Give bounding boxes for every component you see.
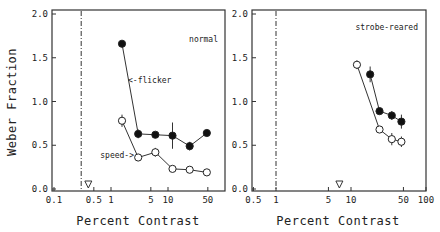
threshold-triangle-icon xyxy=(336,181,343,188)
x-tick-label: 10 xyxy=(163,195,174,205)
filled-circle-marker xyxy=(376,108,383,115)
annotation-flicker: <-flicker xyxy=(128,76,172,85)
x-tick-label: 1 xyxy=(108,195,113,205)
series-line xyxy=(370,74,401,121)
open-circle-marker xyxy=(388,136,395,143)
open-circle-marker xyxy=(118,117,125,124)
open-circle-marker xyxy=(353,61,360,68)
panel-label: strobe-reared xyxy=(355,23,418,32)
x-axis-title: Percent Contrast xyxy=(276,214,400,228)
threshold-triangle-icon xyxy=(85,181,92,188)
x-tick-label: 0.5 xyxy=(86,195,102,205)
filled-circle-marker xyxy=(367,71,374,78)
y-tick-label: 1.5 xyxy=(232,53,248,63)
plot-frame xyxy=(252,10,426,191)
y-tick-label: 2.0 xyxy=(32,9,48,19)
open-circle-marker xyxy=(376,126,383,133)
filled-circle-marker xyxy=(152,131,159,138)
open-circle-marker xyxy=(398,138,405,145)
chart-figure: 0.00.51.01.52.00.10.5151050<-flickerspee… xyxy=(0,0,440,232)
filled-circle-marker xyxy=(398,118,405,125)
series-flicker xyxy=(367,67,405,129)
panel-label: normal xyxy=(189,35,218,44)
filled-circle-marker xyxy=(135,130,142,137)
x-tick-label: 100 xyxy=(418,195,434,205)
x-tick-label: 50 xyxy=(398,195,409,205)
x-tick-label: 50 xyxy=(202,195,213,205)
x-tick-label: 5 xyxy=(148,195,153,205)
open-circle-marker xyxy=(135,154,142,161)
filled-circle-marker xyxy=(169,132,176,139)
y-axis-title: Weber Fraction xyxy=(5,48,19,156)
open-circle-marker xyxy=(186,166,193,173)
x-tick-label: 0.5 xyxy=(245,195,261,205)
series-speed xyxy=(353,60,405,147)
open-circle-marker xyxy=(169,165,176,172)
y-tick-label: 2.0 xyxy=(232,9,248,19)
x-tick-label: 0.1 xyxy=(46,195,62,205)
filled-circle-marker xyxy=(203,129,210,136)
x-tick-label: 5 xyxy=(326,195,331,205)
panel-normal: 0.00.51.01.52.00.10.5151050<-flickerspee… xyxy=(5,9,225,228)
y-tick-label: 0.0 xyxy=(32,184,48,194)
y-tick-label: 0.5 xyxy=(232,140,248,150)
y-tick-label: 1.5 xyxy=(32,53,48,63)
filled-circle-marker xyxy=(186,143,193,150)
series-speed xyxy=(118,115,210,176)
open-circle-marker xyxy=(152,149,159,156)
filled-circle-marker xyxy=(388,112,395,119)
y-tick-label: 0.0 xyxy=(232,184,248,194)
x-tick-label: 1 xyxy=(273,195,278,205)
series-line xyxy=(122,121,207,173)
annotation-speed: speed-> xyxy=(100,151,134,160)
y-tick-label: 0.5 xyxy=(32,140,48,150)
x-axis-title: Percent Contrast xyxy=(76,214,200,228)
y-tick-label: 1.0 xyxy=(32,97,48,107)
filled-circle-marker xyxy=(118,40,125,47)
x-tick-label: 10 xyxy=(346,195,357,205)
series-line xyxy=(122,44,207,146)
series-flicker xyxy=(118,40,210,150)
open-circle-marker xyxy=(203,169,210,176)
panel-strobe-reared: 0.00.51.01.52.00.5151050100strobe-reared… xyxy=(232,9,434,228)
y-tick-label: 1.0 xyxy=(232,97,248,107)
